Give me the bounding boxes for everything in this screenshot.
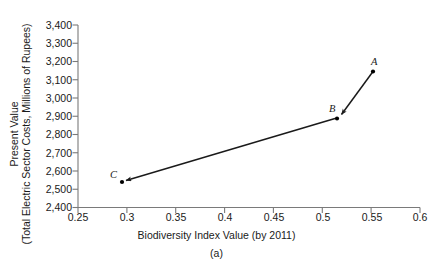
figure-caption: (a) <box>0 247 433 259</box>
data-point-label-a: A <box>371 56 377 67</box>
data-point-label-c: C <box>110 169 117 180</box>
segment-b-to-c <box>126 119 335 181</box>
data-point-a <box>371 69 375 73</box>
data-point-label-b: B <box>329 103 335 114</box>
x-tick-marks <box>78 208 420 214</box>
x-axis-label: Biodiversity Index Value (by 2011) <box>0 229 433 241</box>
data-point-c <box>120 180 124 184</box>
segment-a-to-b <box>342 72 374 115</box>
y-tick-marks <box>73 25 79 208</box>
plot-area <box>0 0 433 268</box>
chart-figure: Present Value (Total Electric Sector Cos… <box>0 0 433 268</box>
data-point-b <box>335 116 339 120</box>
